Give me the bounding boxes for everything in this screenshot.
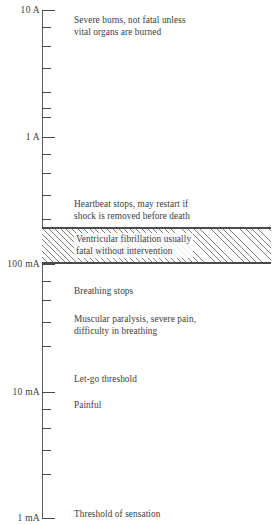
axis-tick bbox=[42, 10, 55, 11]
ventricular-fibrillation-band: Ventricular fibrillation usually fatal w… bbox=[42, 227, 271, 264]
annotation-breathing-stops: Breathing stops bbox=[74, 285, 133, 297]
axis-tick bbox=[42, 195, 51, 196]
axis-tick bbox=[42, 92, 51, 93]
axis-tick bbox=[42, 428, 51, 429]
axis-tick bbox=[42, 46, 51, 47]
axis-tick bbox=[42, 474, 51, 475]
annotation-painful: Painful bbox=[74, 399, 101, 411]
band-bottom-rule bbox=[42, 262, 271, 263]
axis-label-100ma: 100 mA bbox=[7, 259, 40, 269]
axis-tick bbox=[42, 117, 51, 118]
axis-tick bbox=[42, 68, 51, 69]
axis-tick bbox=[42, 322, 51, 323]
axis-tick bbox=[42, 108, 51, 109]
annotation-severe-burns: Severe burns, not fatal unless vital org… bbox=[74, 14, 186, 39]
annotation-muscular-paralysis: Muscular paralysis, severe pain, difficu… bbox=[74, 313, 196, 338]
axis-tick bbox=[42, 137, 55, 138]
axis-tick bbox=[42, 392, 55, 393]
current-effects-figure: 10 A 1 A 100 mA 10 mA 1 mA Severe burns,… bbox=[0, 0, 272, 525]
band-top-rule bbox=[42, 228, 271, 229]
axis-tick bbox=[42, 264, 55, 265]
axis-tick bbox=[42, 27, 51, 28]
annotation-threshold-of-sensation: Threshold of sensation bbox=[74, 508, 160, 520]
axis-tick bbox=[42, 281, 51, 282]
axis-label-10ma: 10 mA bbox=[12, 387, 40, 397]
axis-tick bbox=[42, 154, 51, 155]
axis-tick bbox=[42, 450, 51, 451]
annotation-heartbeat-stops: Heartbeat stops, may restart if shock is… bbox=[74, 198, 190, 223]
axis-tick bbox=[42, 518, 55, 519]
axis-tick bbox=[42, 346, 51, 347]
annotation-ventricular-fibrillation: Ventricular fibrillation usually fatal w… bbox=[74, 233, 193, 258]
axis-tick bbox=[42, 409, 51, 410]
annotation-let-go-threshold: Let-go threshold bbox=[74, 373, 137, 385]
axis-label-10a: 10 A bbox=[21, 5, 40, 15]
axis-tick bbox=[42, 300, 51, 301]
axis-tick bbox=[42, 219, 51, 220]
axis-label-1a: 1 A bbox=[26, 132, 40, 142]
axis-tick bbox=[42, 173, 51, 174]
axis-label-1ma: 1 mA bbox=[17, 513, 40, 523]
